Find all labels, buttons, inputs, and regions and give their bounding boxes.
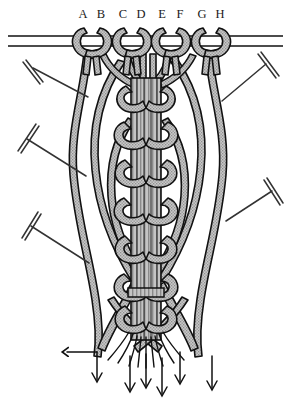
knot-diagram-canvas: A B C D E F G H (0, 0, 291, 408)
cord-label-E: E (158, 7, 166, 21)
lower-gathering-band (128, 288, 164, 297)
cord-label-D: D (136, 7, 145, 21)
cord-label-B: B (97, 7, 105, 21)
cord-label-F: F (177, 7, 184, 21)
cord-label-G: G (197, 7, 206, 21)
cord-label-C: C (119, 7, 127, 21)
cord-label-A: A (78, 7, 87, 21)
cord-label-H: H (215, 7, 224, 21)
knot-diagram-container: A B C D E F G H (0, 0, 291, 408)
